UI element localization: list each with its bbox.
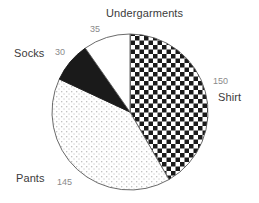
slice-label-pants: Pants bbox=[16, 172, 45, 184]
slice-value-pants: 145 bbox=[57, 177, 72, 187]
slice-label-shirt: Shirt bbox=[218, 91, 241, 103]
slice-value-undergarments: 35 bbox=[90, 24, 100, 34]
pie-slices bbox=[52, 34, 208, 190]
slice-value-socks: 30 bbox=[55, 47, 65, 57]
slice-value-shirt: 150 bbox=[213, 76, 228, 86]
pie-chart: Undergarments 35 Socks 30 Shirt 150 Pant… bbox=[0, 0, 259, 203]
slice-label-undergarments: Undergarments bbox=[106, 7, 183, 19]
slice-label-socks: Socks bbox=[14, 47, 44, 59]
